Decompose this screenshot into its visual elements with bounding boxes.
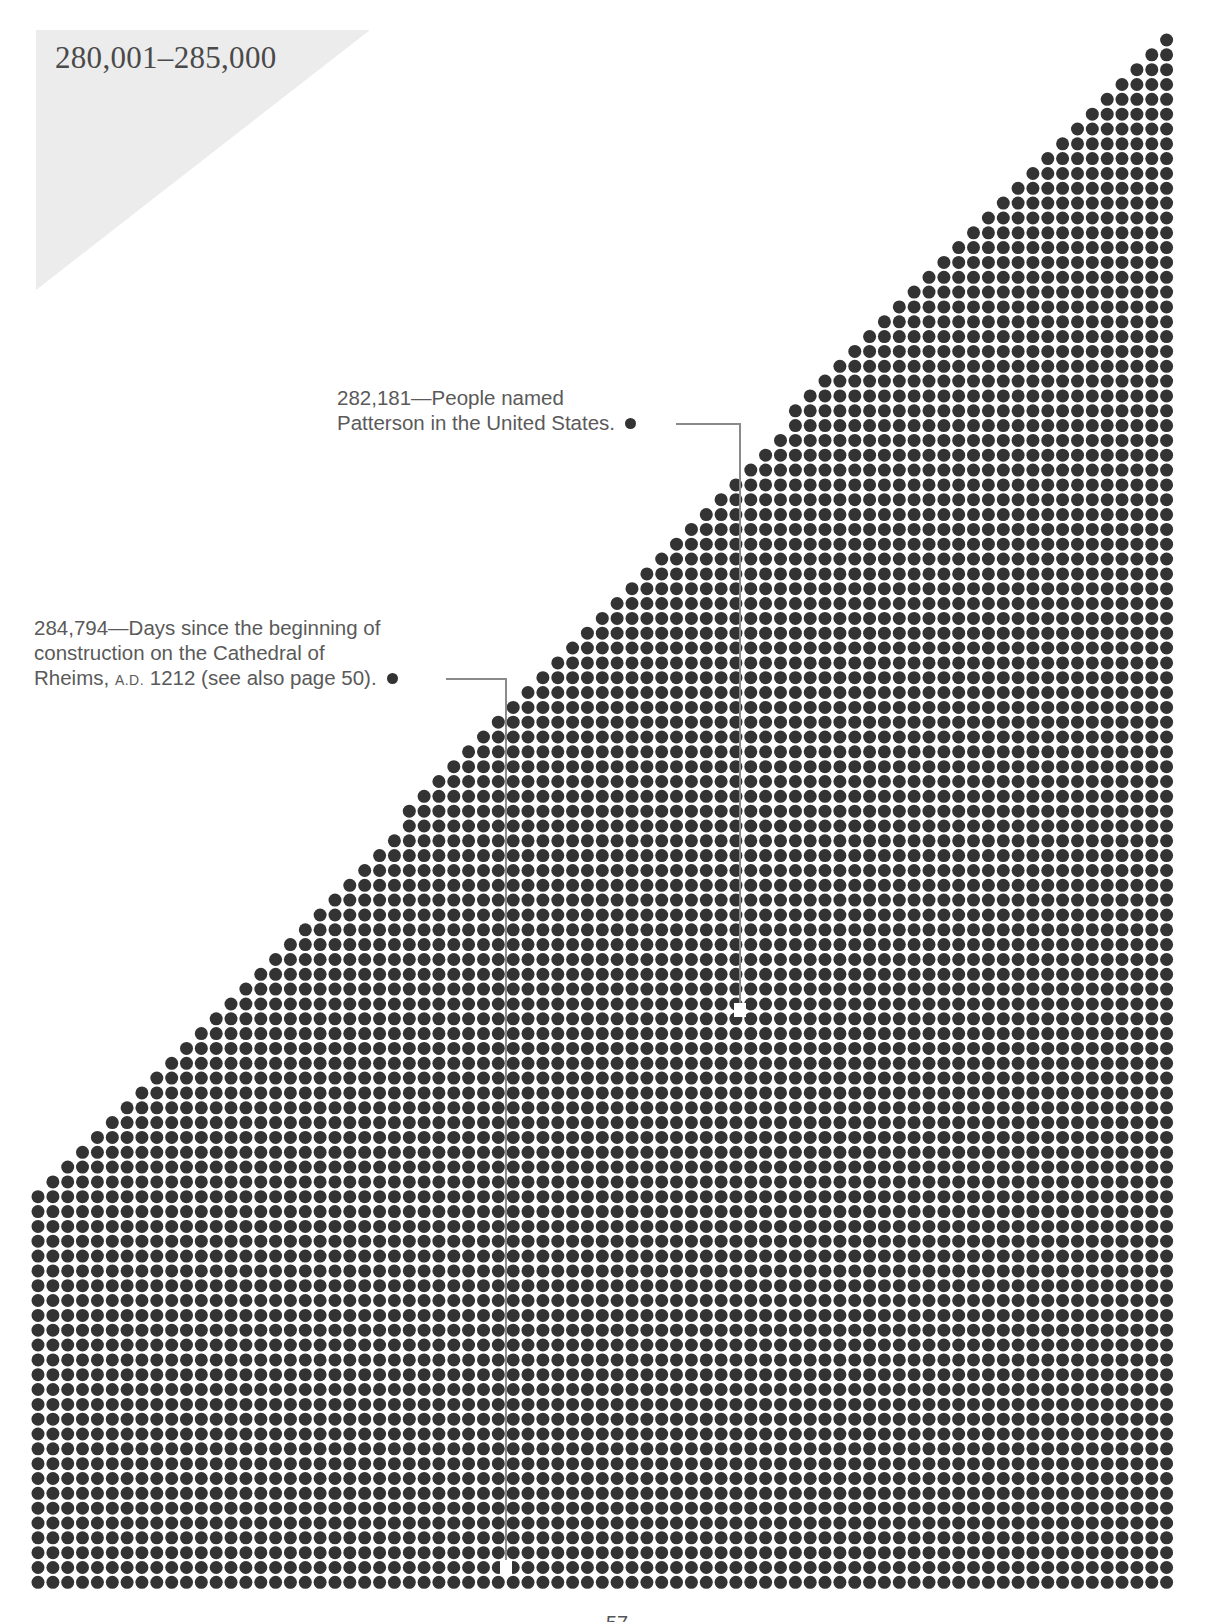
annotation-value: 282,181 (337, 386, 411, 409)
annotation-patterson: 282,181—People named Patterson in the Un… (337, 385, 636, 435)
annotation-rheims: 284,794—Days since the beginning of cons… (34, 615, 398, 693)
em-dash: — (108, 616, 129, 639)
annotation-text: Days since the beginning of (129, 616, 381, 639)
dot-grid (32, 34, 1174, 1589)
annotation-rheims-line3: Rheims, A.D. 1212 (see also page 50). (34, 665, 398, 693)
highlight-dot-patterson (734, 1003, 746, 1017)
em-dash: — (411, 386, 432, 409)
annotation-text: People named (432, 386, 564, 409)
annotation-text: Patterson in the United States. (337, 411, 615, 434)
annotation-text: 1212 (see also page 50). (144, 666, 377, 689)
annotation-rheims-line2: construction on the Cathedral of (34, 640, 398, 665)
bullet-marker-icon (387, 673, 398, 684)
page-number: 57 (606, 1612, 628, 1622)
annotation-rheims-line1: 284,794—Days since the beginning of (34, 615, 398, 640)
annotation-value: 284,794 (34, 616, 108, 639)
annotation-patterson-line1: 282,181—People named (337, 385, 636, 410)
annotation-text: Rheims, (34, 666, 115, 689)
bullet-marker-icon (625, 418, 636, 429)
annotation-patterson-line2: Patterson in the United States. (337, 410, 636, 435)
era-abbrev: A.D. (115, 672, 144, 688)
highlight-dot-rheims (500, 1560, 512, 1574)
dot-grid-chart (0, 0, 1232, 1622)
